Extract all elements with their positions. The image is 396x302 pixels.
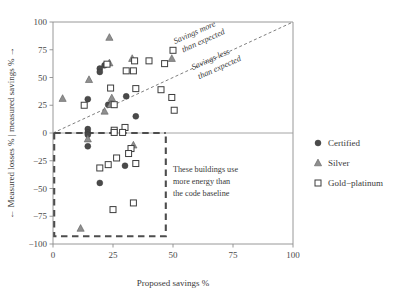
data-point-silver <box>168 55 175 62</box>
legend-item-gold-platinum[interactable]: Gold−platinum <box>315 178 383 188</box>
data-point-gold-platinum <box>171 107 177 113</box>
diagonal-annotations: Savings more than expected Savings less … <box>172 17 243 82</box>
x-tick-label: 0 <box>51 250 56 260</box>
x-axis-ticks: 0255075100 <box>51 244 301 260</box>
data-point-certified <box>85 143 91 149</box>
legend-label: Gold−platinum <box>328 178 383 188</box>
x-tick-label: 100 <box>286 250 300 260</box>
data-point-certified <box>97 180 103 186</box>
y-tick-label: 100 <box>34 17 48 27</box>
data-point-gold-platinum <box>162 61 168 67</box>
data-point-gold-platinum <box>81 102 87 108</box>
data-point-gold-platinum <box>132 58 138 64</box>
data-point-gold-platinum <box>111 129 117 135</box>
data-point-silver <box>85 76 92 83</box>
data-point-certified <box>123 93 129 99</box>
data-point-gold-platinum <box>130 200 136 206</box>
data-point-gold-platinum <box>104 61 110 67</box>
y-tick-label: −50 <box>33 184 48 194</box>
chart-canvas: 1007550250−25−50−75−100 0255075100 Savin… <box>0 0 396 302</box>
data-point-silver <box>77 225 84 232</box>
legend-marker-square-icon <box>315 180 321 186</box>
legend-marker-circle-icon <box>315 140 321 146</box>
legend-item-silver[interactable]: Silver <box>314 158 349 168</box>
data-point-gold-platinum <box>133 86 139 92</box>
underperform-box-annotation: These buildings use more energy than the… <box>173 165 238 198</box>
data-point-gold-platinum <box>130 68 136 74</box>
data-point-gold-platinum <box>126 151 132 157</box>
data-point-silver <box>106 34 113 41</box>
scatter-chart-figure: 1007550250−25−50−75−100 0255075100 Savin… <box>0 0 396 302</box>
data-point-gold-platinum <box>105 162 111 168</box>
y-tick-label: 50 <box>38 73 48 83</box>
data-point-gold-platinum <box>114 155 120 161</box>
data-point-gold-platinum <box>110 207 116 213</box>
box-annot-line3: the code baseline <box>173 189 230 198</box>
box-annot-line1: These buildings use <box>173 165 238 174</box>
data-point-gold-platinum <box>123 68 129 74</box>
x-tick-label: 50 <box>169 250 179 260</box>
y-tick-label: 0 <box>43 128 48 138</box>
x-axis-title: Proposed savings % <box>137 278 210 288</box>
series-gold-platinum <box>81 47 177 212</box>
y-tick-label: −75 <box>33 211 48 221</box>
y-axis-ticks: 1007550250−25−50−75−100 <box>28 17 53 249</box>
data-point-certified <box>133 113 139 119</box>
data-point-gold-platinum <box>133 161 139 167</box>
data-point-gold-platinum <box>120 129 126 135</box>
data-point-gold-platinum <box>158 87 164 93</box>
underperforming-region-box <box>54 133 166 236</box>
highlight-box-sides <box>54 133 166 236</box>
y-tick-label: −25 <box>33 156 48 166</box>
data-point-certified <box>85 96 91 102</box>
chart-legend: CertifiedSilverGold−platinum <box>314 138 383 188</box>
data-point-certified <box>122 163 128 169</box>
y-axis-title: ← Measured losses % | measured savings %… <box>6 47 16 218</box>
legend-item-certified[interactable]: Certified <box>315 138 360 148</box>
x-tick-label: 75 <box>229 250 239 260</box>
data-point-gold-platinum <box>97 165 103 171</box>
legend-marker-triangle-icon <box>314 159 321 166</box>
legend-label: Silver <box>328 158 350 168</box>
x-tick-label: 25 <box>109 250 119 260</box>
data-point-gold-platinum <box>169 94 175 100</box>
data-point-gold-platinum <box>146 58 152 64</box>
y-tick-label: −100 <box>28 239 47 249</box>
data-point-certified <box>97 69 103 75</box>
y-tick-label: 75 <box>38 45 48 55</box>
data-point-gold-platinum <box>170 47 176 53</box>
box-annot-line2: more energy than <box>173 177 230 186</box>
y-tick-label: 25 <box>38 100 48 110</box>
data-point-silver <box>59 95 66 102</box>
series-certified <box>85 62 139 186</box>
data-point-gold-platinum <box>111 102 117 108</box>
data-point-silver <box>108 94 115 101</box>
legend-label: Certified <box>328 138 360 148</box>
data-point-gold-platinum <box>108 85 114 91</box>
